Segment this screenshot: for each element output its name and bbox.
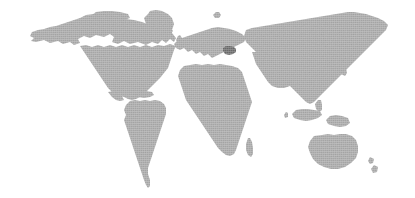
world-map-svg[interactable] (0, 0, 415, 198)
world-map-figure (0, 0, 415, 198)
